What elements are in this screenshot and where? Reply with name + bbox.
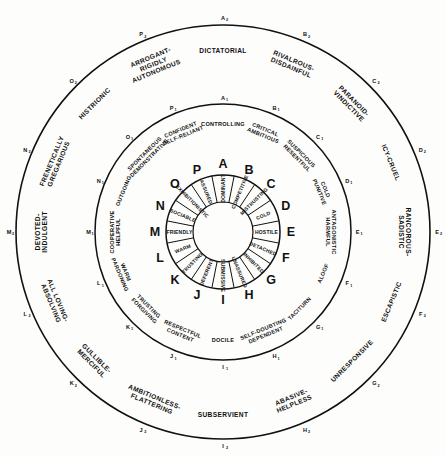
svg-text:TRUSTING: TRUSTING <box>180 251 203 274</box>
outer-label-j2: AMBITIONLESS-FLATTERING <box>124 383 182 418</box>
svg-text:K: K <box>126 324 130 330</box>
svg-text:DEFERENT: DEFERENT <box>198 258 214 287</box>
svg-text:DETACHED: DETACHED <box>249 240 278 257</box>
middle-code-p1: P1 <box>170 105 177 112</box>
svg-text:O: O <box>69 78 74 84</box>
core-trait-n: SOCIABLE <box>169 207 197 223</box>
middle-code-m1: M1 <box>86 229 94 236</box>
core-sector-divider <box>212 261 217 287</box>
svg-text:E: E <box>356 229 360 235</box>
svg-text:B: B <box>245 163 254 177</box>
core-trait-j: DEFERENT <box>198 258 214 287</box>
middle-code-a1: A1 <box>221 95 228 102</box>
svg-text:D: D <box>419 147 423 153</box>
core-letter-c: C <box>267 177 276 191</box>
outer-label-d2: ICY-CRUEL <box>380 143 401 181</box>
svg-text:SUBSERVIENT: SUBSERVIENT <box>198 411 249 418</box>
svg-text:ICY-CRUEL: ICY-CRUEL <box>380 143 401 181</box>
svg-text:I: I <box>221 293 224 307</box>
svg-text:2: 2 <box>308 430 310 434</box>
svg-text:2: 2 <box>144 430 146 434</box>
core-sector-divider <box>229 261 234 287</box>
svg-text:HISTRIONIC: HISTRIONIC <box>77 86 111 120</box>
svg-text:P: P <box>193 163 201 177</box>
svg-text:SOCIABLE: SOCIABLE <box>169 207 197 223</box>
core-letter-m: M <box>150 225 160 239</box>
outer-code-i2: I2 <box>222 443 228 450</box>
svg-text:1: 1 <box>226 98 228 102</box>
outer-code-a2: A2 <box>221 15 228 22</box>
svg-text:DOMINANT: DOMINANT <box>220 174 226 203</box>
svg-text:M: M <box>7 229 12 235</box>
core-letter-n: N <box>156 199 165 213</box>
outer-code-b2: B2 <box>303 31 310 38</box>
core-letter-o: O <box>170 177 180 191</box>
middle-label-k1: TRUSTINGFORGIVING <box>130 292 163 325</box>
outer-label-g2: UNRESPONSIVE <box>329 338 374 383</box>
core-letter-j: J <box>194 288 201 302</box>
middle-code-o1: O1 <box>126 134 133 141</box>
outer-code-k2: K2 <box>70 380 77 387</box>
svg-text:O: O <box>126 134 131 140</box>
middle-code-n1: N1 <box>97 178 104 185</box>
svg-text:2: 2 <box>75 384 77 388</box>
svg-text:1: 1 <box>131 137 133 141</box>
outer-label-f2: ESCAPISTIC <box>380 280 403 322</box>
outer-code-p2: P2 <box>139 31 146 38</box>
core-letter-k: K <box>170 273 179 287</box>
middle-code-h1: H1 <box>272 353 279 360</box>
svg-text:J: J <box>194 288 201 302</box>
svg-text:A: A <box>218 157 227 171</box>
middle-label-h1: SELF-DOUBTINGDEPENDENT <box>239 317 289 347</box>
svg-text:2: 2 <box>144 35 146 39</box>
svg-text:DEVOTED-: DEVOTED- <box>34 214 41 251</box>
outer-label-l2: ALL LOVING-ABSOLVING <box>39 278 70 326</box>
middle-code-j1: J1 <box>170 353 177 360</box>
svg-text:N: N <box>23 147 27 153</box>
middle-label-n1: OUTGOING <box>114 175 132 207</box>
middle-code-l1: L1 <box>97 280 104 287</box>
svg-text:C: C <box>372 78 376 84</box>
svg-text:M: M <box>150 225 160 239</box>
core-letter-b: B <box>245 163 254 177</box>
middle-code-k1: K1 <box>126 324 133 331</box>
svg-text:F: F <box>419 311 423 317</box>
svg-text:RANCOROUS-: RANCOROUS- <box>405 208 412 257</box>
circumplex-svg: DOMINANTACOMPETITIVEBMISTRUSTINGCCOLDDHO… <box>0 0 446 456</box>
svg-text:2: 2 <box>440 232 442 236</box>
svg-text:2: 2 <box>377 384 379 388</box>
svg-text:F: F <box>346 280 350 286</box>
svg-text:2: 2 <box>75 81 77 85</box>
svg-text:ESCAPISTIC: ESCAPISTIC <box>380 280 403 322</box>
svg-text:E: E <box>435 229 439 235</box>
middle-label-d1: COLDPUNITIVE <box>312 176 334 206</box>
core-trait-l: WARM <box>174 243 192 255</box>
outer-code-h2: H2 <box>303 427 310 434</box>
middle-code-i1: I1 <box>222 364 228 371</box>
svg-text:1: 1 <box>102 284 104 288</box>
svg-text:ASSURED: ASSURED <box>199 179 215 205</box>
core-trait-e: HOSTILE <box>255 229 279 235</box>
middle-code-c1: C1 <box>316 134 323 141</box>
middle-code-e1: E1 <box>356 229 363 236</box>
svg-text:I: I <box>222 443 224 449</box>
svg-text:H: H <box>303 427 307 433</box>
core-letter-e: E <box>287 225 295 239</box>
svg-text:I: I <box>222 364 224 370</box>
svg-text:K: K <box>170 273 179 287</box>
svg-text:J: J <box>140 427 143 433</box>
svg-text:1: 1 <box>350 284 352 288</box>
core-letter-a: A <box>218 157 227 171</box>
svg-text:1: 1 <box>102 181 104 185</box>
svg-text:L: L <box>97 280 101 286</box>
outer-label-i2: SUBSERVIENT <box>198 411 249 418</box>
svg-text:ANTAGONISTIC: ANTAGONISTIC <box>331 209 337 254</box>
outer-label-p2: ARROGANT-RIGIDLYAUTONOMOUS <box>125 44 181 84</box>
svg-text:2: 2 <box>424 150 426 154</box>
svg-text:CONTROLLING: CONTROLLING <box>201 121 245 127</box>
core-trait-f: DETACHED <box>249 240 278 257</box>
middle-code-b1: B1 <box>272 105 279 112</box>
svg-text:K: K <box>70 380 74 386</box>
outer-code-f2: F2 <box>419 311 426 318</box>
outer-label-m2: DEVOTED-INDULGENT <box>34 211 48 253</box>
